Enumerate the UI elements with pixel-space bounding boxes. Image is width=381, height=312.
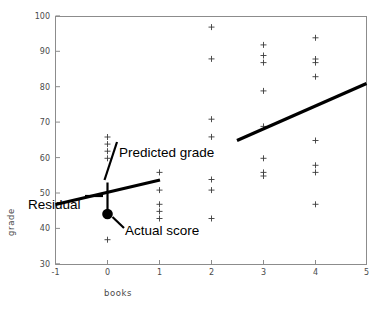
data-point xyxy=(157,201,163,207)
x-tick-label-1: 1 xyxy=(157,268,162,277)
regression-line-right-segment xyxy=(237,84,367,141)
data-point xyxy=(105,148,111,154)
data-point xyxy=(209,216,215,222)
residual-label: Residual xyxy=(28,197,81,212)
actual-score-dot xyxy=(102,209,113,220)
data-point xyxy=(261,88,267,94)
data-point xyxy=(313,162,319,168)
data-point xyxy=(157,208,163,214)
data-point xyxy=(157,169,163,175)
data-point xyxy=(209,116,215,122)
x-tick-label-3: 3 xyxy=(261,268,266,277)
data-point xyxy=(157,187,163,193)
x-tick-label-0: 0 xyxy=(105,268,110,277)
data-point xyxy=(209,177,215,183)
y-axis-ticks xyxy=(56,16,61,264)
scatter-points xyxy=(105,24,319,243)
plot-frame xyxy=(56,16,368,265)
actual-score-label: Actual score xyxy=(125,223,199,238)
y-tick-label-30: 30 xyxy=(40,260,50,269)
y-tick-label-90: 90 xyxy=(40,47,50,56)
data-point xyxy=(261,42,267,48)
scatter-plot-figure: 100 90 80 70 60 50 40 30 -1 0 1 2 3 4 xyxy=(0,0,381,312)
x-axis-ticks xyxy=(56,260,367,265)
data-point xyxy=(313,35,319,41)
data-point xyxy=(209,134,215,140)
x-axis-title: books xyxy=(104,288,132,298)
x-tick-label-4: 4 xyxy=(313,268,318,277)
y-tick-label-70: 70 xyxy=(40,118,50,127)
data-point xyxy=(105,237,111,243)
y-tick-label-40: 40 xyxy=(40,224,50,233)
data-point xyxy=(261,173,267,179)
y-axis-title: grade xyxy=(6,208,16,236)
data-point xyxy=(209,56,215,62)
data-point xyxy=(209,187,215,193)
data-point xyxy=(105,141,111,147)
data-point xyxy=(313,169,319,175)
data-point xyxy=(105,155,111,161)
data-point xyxy=(313,201,319,207)
predicted-grade-label: Predicted grade xyxy=(119,145,214,160)
data-point xyxy=(313,74,319,80)
x-tick-label-2: 2 xyxy=(209,268,214,277)
x-tick-label-minus1: -1 xyxy=(52,268,60,277)
chart-canvas: 100 90 80 70 60 50 40 30 -1 0 1 2 3 4 xyxy=(0,0,381,312)
data-point xyxy=(261,155,267,161)
y-tick-label-100: 100 xyxy=(35,12,50,21)
data-point xyxy=(209,24,215,30)
x-tick-label-5: 5 xyxy=(364,268,369,277)
y-axis-tick-labels: 100 90 80 70 60 50 40 30 xyxy=(35,12,50,269)
data-point xyxy=(105,134,111,140)
regression-line xyxy=(56,84,367,205)
data-point xyxy=(313,60,319,66)
x-axis-tick-labels: -1 0 1 2 3 4 5 xyxy=(52,268,370,277)
data-point xyxy=(157,216,163,222)
y-tick-label-80: 80 xyxy=(40,83,50,92)
y-tick-label-60: 60 xyxy=(40,154,50,163)
predicted-grade-leader-line xyxy=(105,142,118,180)
data-point xyxy=(261,53,267,59)
actual-score-leader-line xyxy=(113,217,125,228)
data-point xyxy=(313,138,319,144)
data-point xyxy=(261,60,267,66)
